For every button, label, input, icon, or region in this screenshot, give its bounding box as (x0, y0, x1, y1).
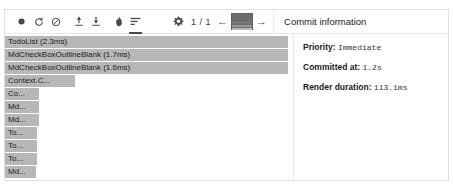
chart-row: MdCheckBoxOutlineBlank (1.6ms) (5, 62, 293, 74)
chart-bar-label: Md... (8, 114, 26, 126)
chart-bar[interactable]: Md... (5, 166, 36, 178)
chart-bar[interactable]: Md... (5, 114, 39, 126)
profiler-panel: 1 / 1 ← → Commit information TodoList (2… (4, 9, 449, 181)
snapshot-line (232, 28, 252, 30)
chart-row: To... (5, 127, 293, 139)
commit-detail-value: 1.2s (363, 63, 382, 72)
commit-detail-label: Committed at: (303, 62, 360, 72)
gear-icon[interactable] (170, 12, 187, 32)
chart-bar-label: MdCheckBoxOutlineBlank (1.6ms) (8, 62, 130, 74)
next-commit-button[interactable]: → (255, 12, 268, 32)
ranked-chart-icon[interactable] (127, 12, 144, 32)
profiler-toolbar: 1 / 1 ← → Commit information (5, 10, 448, 34)
chart-bar[interactable]: MdCheckBoxOutlineBlank (1.7ms) (5, 49, 288, 61)
flame-icon[interactable] (110, 12, 127, 32)
prev-commit-button[interactable]: ← (216, 12, 229, 32)
chart-row: Md... (5, 166, 293, 178)
commit-information-panel: Priority: ImmediateCommitted at: 1.2sRen… (294, 34, 448, 180)
chart-row: MdCheckBoxOutlineBlank (1.7ms) (5, 49, 293, 61)
profiler-screenshot: 1 / 1 ← → Commit information TodoList (2… (0, 0, 453, 189)
profiler-body: TodoList (2.3ms)MdCheckBoxOutlineBlank (… (5, 34, 448, 180)
snapshot-line (232, 22, 252, 23)
chart-row: Context.C... (5, 75, 293, 87)
commit-detail-row: Render duration: 113.1ms (303, 82, 448, 93)
commit-detail-value: 113.1ms (374, 83, 408, 92)
clear-button[interactable] (47, 12, 64, 32)
chart-bar[interactable]: TodoList (2.3ms) (5, 36, 288, 48)
chart-row: To... (5, 140, 293, 152)
chart-bar-label: To... (8, 127, 23, 139)
chart-bar[interactable]: To... (5, 153, 37, 165)
chart-bar-label: Co... (8, 88, 25, 100)
ranked-chart[interactable]: TodoList (2.3ms)MdCheckBoxOutlineBlank (… (5, 34, 293, 180)
chart-bar[interactable]: Context.C... (5, 75, 75, 87)
chart-bar-label: Md... (8, 166, 26, 178)
commit-detail-row: Committed at: 1.2s (303, 62, 448, 73)
reload-button[interactable] (30, 12, 47, 32)
commit-detail-row: Priority: Immediate (303, 42, 448, 53)
commit-detail-label: Priority: (303, 42, 336, 52)
chart-bar[interactable]: Md... (5, 101, 39, 113)
commit-page-counter: 1 / 1 (187, 17, 216, 27)
snapshot-line (232, 25, 252, 27)
load-profile-button[interactable] (70, 12, 87, 32)
chart-bar[interactable]: To... (5, 127, 37, 139)
commit-detail-label: Render duration: (303, 82, 371, 92)
chart-bar[interactable]: MdCheckBoxOutlineBlank (1.6ms) (5, 62, 288, 74)
chart-bar-label: To... (8, 153, 23, 165)
chart-bar-label: TodoList (2.3ms) (8, 36, 67, 48)
chart-row: Md... (5, 101, 293, 113)
chart-row: TodoList (2.3ms) (5, 36, 293, 48)
chart-bar-label: To... (8, 140, 23, 152)
chart-bar-label: MdCheckBoxOutlineBlank (1.7ms) (8, 49, 130, 61)
commit-detail-value: Immediate (338, 43, 381, 52)
chart-bar[interactable]: Co... (5, 88, 39, 100)
save-profile-button[interactable] (87, 12, 104, 32)
chart-bar-label: Md... (8, 101, 26, 113)
commit-snapshot-thumbnail[interactable] (231, 13, 253, 30)
chart-row: Md... (5, 114, 293, 126)
commit-information-title: Commit information (274, 16, 366, 27)
record-button[interactable] (13, 12, 30, 32)
chart-bar-label: Context.C... (8, 75, 50, 87)
chart-row: To... (5, 153, 293, 165)
chart-bar[interactable]: To... (5, 140, 37, 152)
chart-row: Co... (5, 88, 293, 100)
